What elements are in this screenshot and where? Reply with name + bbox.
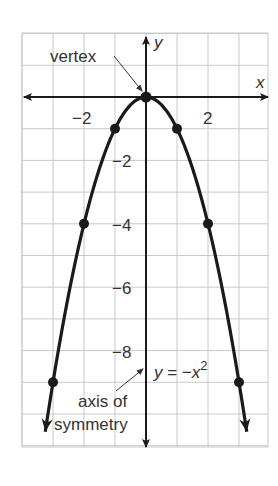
data-point (79, 219, 89, 229)
tick-labels: −22−2−4−6−8 (72, 109, 212, 362)
vertex-point (141, 92, 152, 103)
eq-x: x (191, 363, 201, 382)
parabola-graph: −22−2−4−6−8 x y vertex y = −x2 axis of s… (0, 0, 278, 486)
data-point (203, 219, 213, 229)
data-point (172, 124, 182, 134)
eq-exp: 2 (200, 358, 207, 373)
vertex-pointer (114, 56, 142, 91)
y-tick-label: −2 (112, 152, 131, 171)
y-axis-label: y (153, 33, 164, 52)
x-tick-label: 2 (203, 109, 212, 128)
data-point (110, 124, 120, 134)
eq-mid: = − (163, 363, 192, 382)
x-axis-label: x (255, 73, 265, 92)
data-point (48, 377, 58, 387)
data-point (234, 377, 244, 387)
axis-of-symmetry-label-line2: symmetry (54, 415, 128, 434)
y-tick-label: −6 (112, 279, 131, 298)
x-tick-label: −2 (72, 109, 91, 128)
y-tick-label: −4 (112, 216, 131, 235)
equation-label: y = −x2 (153, 358, 208, 382)
axis-of-symmetry-label-line1: axis of (78, 392, 127, 411)
vertex-label: vertex (50, 47, 97, 66)
axis-of-symmetry-pointer (116, 369, 143, 391)
y-tick-label: −8 (112, 343, 131, 362)
